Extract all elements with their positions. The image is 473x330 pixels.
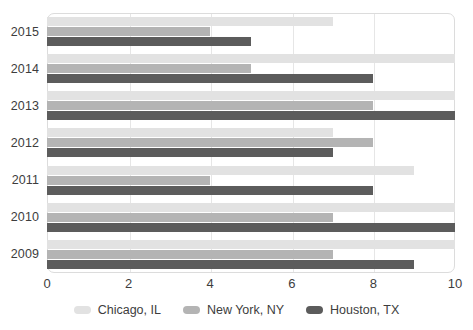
bar	[47, 186, 373, 195]
bar	[47, 213, 333, 222]
bar	[47, 17, 333, 26]
y-axis-label: 2013	[11, 99, 39, 113]
x-axis-ticks: 0246810	[47, 276, 455, 298]
legend-label: Houston, TX	[330, 303, 399, 317]
bar-group	[47, 50, 455, 87]
y-axis-label: 2015	[11, 25, 39, 39]
bar	[47, 111, 455, 120]
bar-group	[47, 87, 455, 124]
bar-series-layer	[47, 13, 455, 273]
legend-item[interactable]: New York, NY	[183, 303, 284, 317]
bar	[47, 37, 251, 46]
bar	[47, 260, 414, 269]
x-axis-tick-label: 10	[448, 276, 462, 291]
bar-group	[47, 13, 455, 50]
legend-swatch-icon	[183, 306, 200, 314]
y-axis-label: 2011	[12, 173, 39, 187]
bar	[47, 74, 373, 83]
bar	[47, 54, 455, 63]
bar	[47, 101, 373, 110]
legend-swatch-icon	[306, 306, 323, 314]
x-axis-tick-label: 6	[288, 276, 295, 291]
bar	[47, 91, 455, 100]
bar	[47, 27, 210, 36]
legend-label: New York, NY	[207, 303, 284, 317]
legend-swatch-icon	[74, 306, 91, 314]
bar	[47, 203, 455, 212]
bar-group	[47, 124, 455, 161]
bar-chart: 2015201420132012201120102009 0246810 Chi…	[0, 0, 473, 330]
legend-item[interactable]: Houston, TX	[306, 303, 399, 317]
y-axis-label: 2010	[11, 210, 39, 224]
y-axis-label: 2014	[11, 62, 39, 76]
bar	[47, 240, 455, 249]
x-axis-tick-label: 2	[125, 276, 132, 291]
bar	[47, 128, 333, 137]
y-axis-label: 2009	[11, 247, 39, 261]
bar	[47, 166, 414, 175]
bar	[47, 250, 333, 259]
bar	[47, 176, 210, 185]
bar	[47, 64, 251, 73]
legend-label: Chicago, IL	[98, 303, 161, 317]
x-axis-tick-label: 8	[370, 276, 377, 291]
bar	[47, 148, 333, 157]
bar	[47, 138, 373, 147]
bar-group	[47, 162, 455, 199]
bar	[47, 223, 455, 232]
bar-group	[47, 236, 455, 273]
chart-legend: Chicago, ILNew York, NYHouston, TX	[0, 303, 473, 317]
y-axis-label: 2012	[11, 136, 39, 150]
x-axis-tick-label: 4	[207, 276, 214, 291]
y-axis-category-labels: 2015201420132012201120102009	[0, 13, 43, 273]
legend-item[interactable]: Chicago, IL	[74, 303, 161, 317]
bar-group	[47, 199, 455, 236]
x-axis-tick-label: 0	[43, 276, 50, 291]
